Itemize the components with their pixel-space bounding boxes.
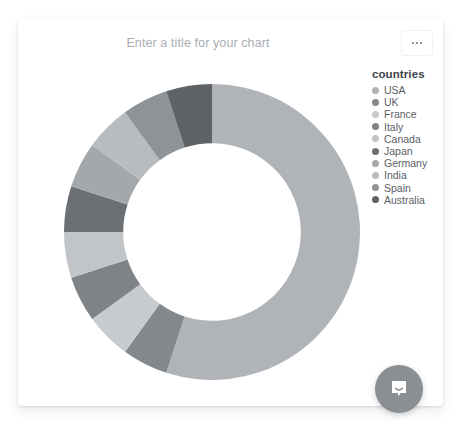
legend-item-label: France xyxy=(384,108,417,120)
screen: Enter a title for your chart countries U… xyxy=(0,0,461,434)
legend-swatch-icon xyxy=(372,135,379,142)
legend-item[interactable]: Japan xyxy=(372,145,452,157)
chart-card: Enter a title for your chart countries U… xyxy=(18,18,443,406)
legend-item[interactable]: Germany xyxy=(372,157,452,169)
ellipsis-icon xyxy=(412,42,422,44)
legend-item[interactable]: Italy xyxy=(372,121,452,133)
legend-item[interactable]: Spain xyxy=(372,182,452,194)
legend-swatch-icon xyxy=(372,172,379,179)
legend-item-label: Italy xyxy=(384,121,403,133)
legend-item-label: USA xyxy=(384,84,406,96)
legend-swatch-icon xyxy=(372,184,379,191)
legend-item-label: Japan xyxy=(384,145,413,157)
chart-title-placeholder[interactable]: Enter a title for your chart xyxy=(18,36,378,50)
legend-item[interactable]: UK xyxy=(372,96,452,108)
legend-item-label: Canada xyxy=(384,133,421,145)
legend-item-label: India xyxy=(384,169,407,181)
legend-swatch-icon xyxy=(372,87,379,94)
legend-items: USAUKFranceItalyCanadaJapanGermanyIndiaS… xyxy=(372,84,452,206)
chart-legend: countries USAUKFranceItalyCanadaJapanGer… xyxy=(372,68,452,206)
legend-swatch-icon xyxy=(372,148,379,155)
chart-options-menu-button[interactable] xyxy=(401,30,433,56)
legend-swatch-icon xyxy=(372,99,379,106)
legend-item[interactable]: Australia xyxy=(372,194,452,206)
donut-chart xyxy=(62,82,362,382)
legend-swatch-icon xyxy=(372,111,379,118)
chat-widget-button[interactable] xyxy=(375,365,423,413)
legend-item-label: Australia xyxy=(384,194,425,206)
legend-item[interactable]: India xyxy=(372,169,452,181)
legend-item-label: Germany xyxy=(384,157,427,169)
legend-item[interactable]: USA xyxy=(372,84,452,96)
chat-bubble-icon xyxy=(387,377,411,401)
legend-item[interactable]: France xyxy=(372,108,452,120)
legend-swatch-icon xyxy=(372,196,379,203)
legend-item-label: UK xyxy=(384,96,399,108)
legend-title: countries xyxy=(372,68,452,80)
legend-item-label: Spain xyxy=(384,182,411,194)
donut-chart-svg xyxy=(62,82,362,382)
legend-swatch-icon xyxy=(372,160,379,167)
legend-item[interactable]: Canada xyxy=(372,133,452,145)
legend-swatch-icon xyxy=(372,123,379,130)
